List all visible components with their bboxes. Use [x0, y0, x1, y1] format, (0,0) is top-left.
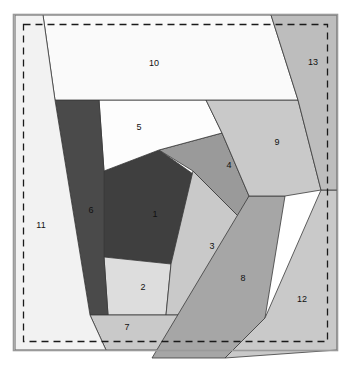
- region-label-9: 9: [274, 137, 279, 147]
- region-label-2: 2: [140, 282, 145, 292]
- region-10: [43, 15, 298, 100]
- region-label-8: 8: [240, 273, 245, 283]
- region-label-1: 1: [152, 209, 157, 219]
- region-label-7: 7: [124, 322, 129, 332]
- regions-group: [15, 15, 337, 358]
- region-label-6: 6: [88, 205, 93, 215]
- region-label-12: 12: [297, 294, 307, 304]
- region-label-13: 13: [308, 57, 318, 67]
- region-label-5: 5: [136, 122, 141, 132]
- partition-svg: 12345678910111213: [0, 0, 353, 366]
- partition-diagram: 12345678910111213: [0, 0, 353, 366]
- region-label-3: 3: [209, 241, 214, 251]
- region-label-4: 4: [226, 160, 231, 170]
- region-label-10: 10: [149, 58, 159, 68]
- region-label-11: 11: [36, 220, 45, 230]
- region-2: [104, 257, 171, 315]
